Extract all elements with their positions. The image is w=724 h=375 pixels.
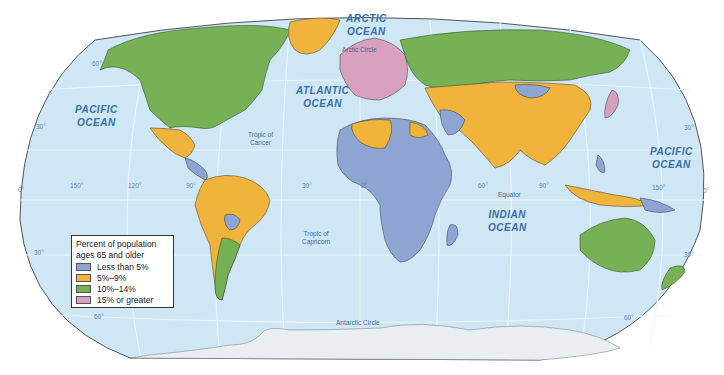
lat-60s-east: 60° xyxy=(624,314,634,321)
legend-label: 10%–14% xyxy=(97,284,136,294)
indian-ocean-label: INDIAN OCEAN xyxy=(488,208,527,234)
pacific-ocean-west-label: PACIFIC OCEAN xyxy=(75,103,118,129)
lat-30n-west: 30° xyxy=(36,123,46,130)
lon-120w: 120° xyxy=(128,182,141,189)
equator-label: Equator xyxy=(498,191,521,199)
lat-30s-east: 30° xyxy=(684,251,694,258)
legend-label: 15% or greater xyxy=(97,295,153,305)
lat-30s-west: 30° xyxy=(34,249,44,256)
legend: Percent of population ages 65 and older … xyxy=(71,235,174,308)
lat-60s-west: 60° xyxy=(94,313,104,320)
lon-150e: 150° xyxy=(652,184,665,191)
legend-title-line1: Percent of population xyxy=(76,239,169,249)
legend-label: 5%–9% xyxy=(97,273,126,283)
lon-0: 0° xyxy=(361,182,367,189)
pacific-ocean-east-label: PACIFIC OCEAN xyxy=(650,145,693,171)
arctic-circle-label: Arctic Circle xyxy=(342,46,377,54)
lat-0-east: 0° xyxy=(703,187,709,194)
legend-item-15-or-greater: 15% or greater xyxy=(76,294,169,305)
lon-90e: 90° xyxy=(539,182,549,189)
legend-item-10-to-14: 10%–14% xyxy=(76,283,169,294)
atlantic-ocean-label: ATLANTIC OCEAN xyxy=(296,84,349,110)
legend-label: Less than 5% xyxy=(97,262,149,272)
swatch-pink xyxy=(76,296,91,304)
legend-title-line2: ages 65 and older xyxy=(76,250,169,260)
legend-item-less-than-5: Less than 5% xyxy=(76,261,169,272)
tropic-of-cancer-label: Tropic of Cancer xyxy=(248,131,273,147)
swatch-blue xyxy=(76,263,91,271)
lon-90w: 90° xyxy=(186,182,196,189)
lat-0-west: 0° xyxy=(18,186,24,193)
lon-60e: 60° xyxy=(478,182,488,189)
arctic-ocean-label: ARCTIC OCEAN xyxy=(346,12,387,38)
swatch-green xyxy=(76,285,91,293)
swatch-yellow xyxy=(76,274,91,282)
lon-30w: 30° xyxy=(302,182,312,189)
tropic-of-capricorn-label: Tropic of Capricorn xyxy=(302,230,330,246)
lon-150w: 150° xyxy=(70,182,83,189)
lat-60n-west: 60° xyxy=(92,60,102,67)
legend-item-5-to-9: 5%–9% xyxy=(76,272,169,283)
lat-30n-east: 30° xyxy=(684,124,694,131)
antarctic-circle-label: Antarctic Circle xyxy=(336,319,380,327)
